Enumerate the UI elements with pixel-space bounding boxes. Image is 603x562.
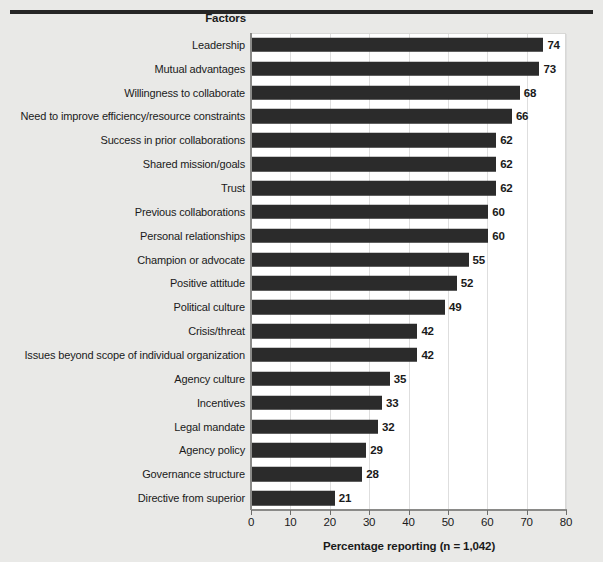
category-label: Shared mission/goals (0, 158, 245, 170)
bar-row: Mutual advantages73 (0, 57, 603, 81)
bar-value-label: 28 (366, 468, 378, 480)
bar-row: Shared mission/goals62 (0, 152, 603, 176)
bar-value-label: 66 (516, 110, 528, 122)
category-label: Willingness to collaborate (0, 87, 245, 99)
x-axis-title: Percentage reporting (n = 1,042) (251, 540, 567, 552)
bar (252, 348, 417, 363)
x-axis-tick-label: 0 (231, 516, 271, 528)
bar-value-label: 73 (543, 63, 555, 75)
category-label: Legal mandate (0, 421, 245, 433)
category-label: Agency culture (0, 373, 245, 385)
bar (252, 443, 366, 458)
bar-value-label: 49 (449, 301, 461, 313)
bar-row: Directive from superior21 (0, 486, 603, 510)
bar (252, 324, 417, 339)
category-label: Directive from superior (0, 492, 245, 504)
bar (252, 181, 496, 196)
x-axis-tick-label: 60 (467, 516, 507, 528)
bar (252, 300, 445, 315)
bar-row: Crisis/threat42 (0, 319, 603, 343)
x-axis-tick-label: 30 (349, 516, 389, 528)
bar-value-label: 29 (370, 444, 382, 456)
bar-row: Need to improve efficiency/resource cons… (0, 105, 603, 129)
category-label: Positive attitude (0, 277, 245, 289)
bar-row: Issues beyond scope of individual organi… (0, 343, 603, 367)
x-axis-tick-label: 10 (270, 516, 310, 528)
bar-value-label: 35 (394, 373, 406, 385)
bar (252, 38, 543, 53)
category-label: Issues beyond scope of individual organi… (0, 349, 245, 361)
bar-row: Political culture49 (0, 295, 603, 319)
x-axis-tick (448, 510, 449, 515)
category-label: Mutual advantages (0, 63, 245, 75)
bar (252, 133, 496, 148)
bar (252, 109, 512, 124)
bar-row: Governance structure28 (0, 462, 603, 486)
bar-value-label: 68 (524, 87, 536, 99)
category-label: Need to improve efficiency/resource cons… (0, 110, 245, 122)
x-axis-tick-label: 40 (389, 516, 429, 528)
bar-value-label: 21 (339, 492, 351, 504)
bar (252, 491, 335, 506)
category-label: Champion or advocate (0, 254, 245, 266)
bar (252, 372, 390, 387)
category-label: Success in prior collaborations (0, 134, 245, 146)
bar-value-label: 55 (473, 254, 485, 266)
chart-figure: Factors Leadership74Mutual advantages73W… (0, 0, 603, 562)
bar-row: Legal mandate32 (0, 415, 603, 439)
bar-row: Agency culture35 (0, 367, 603, 391)
bar-value-label: 60 (492, 230, 504, 242)
bar-row: Previous collaborations60 (0, 200, 603, 224)
bar-rows-container: Leadership74Mutual advantages73Willingne… (0, 33, 603, 510)
x-axis-tick-label: 50 (428, 516, 468, 528)
category-label: Agency policy (0, 444, 245, 456)
bar-value-label: 62 (500, 182, 512, 194)
bar (252, 157, 496, 172)
bar-value-label: 62 (500, 134, 512, 146)
x-axis-tick (290, 510, 291, 515)
bar-value-label: 42 (421, 325, 433, 337)
category-label: Leadership (0, 39, 245, 51)
bar (252, 228, 488, 243)
bar (252, 252, 469, 267)
bar-value-label: 62 (500, 158, 512, 170)
bar (252, 85, 520, 100)
x-axis-tick (527, 510, 528, 515)
x-axis-tick (369, 510, 370, 515)
category-label: Political culture (0, 301, 245, 313)
bar-value-label: 32 (382, 421, 394, 433)
bar-value-label: 42 (421, 349, 433, 361)
category-label: Trust (0, 182, 245, 194)
bar-row: Personal relationships60 (0, 224, 603, 248)
bar-row: Champion or advocate55 (0, 248, 603, 272)
factors-column-header: Factors (0, 12, 246, 24)
bar (252, 467, 362, 482)
category-label: Previous collaborations (0, 206, 245, 218)
x-axis-tick (566, 510, 567, 515)
bar-row: Agency policy29 (0, 438, 603, 462)
category-label: Personal relationships (0, 230, 245, 242)
bar-row: Success in prior collaborations62 (0, 128, 603, 152)
bar (252, 395, 382, 410)
x-axis-tick (409, 510, 410, 515)
bar-row: Trust62 (0, 176, 603, 200)
bar-row: Incentives33 (0, 391, 603, 415)
x-axis-tick-label: 70 (507, 516, 547, 528)
bar-value-label: 74 (547, 39, 559, 51)
bar-value-label: 33 (386, 397, 398, 409)
bar (252, 276, 457, 291)
x-axis-tick (487, 510, 488, 515)
bar-row: Positive attitude52 (0, 272, 603, 296)
x-axis: 01020304050607080 (0, 510, 603, 540)
bar-row: Willingness to collaborate68 (0, 81, 603, 105)
bar (252, 205, 488, 220)
bar-row: Leadership74 (0, 33, 603, 57)
x-axis-tick (251, 510, 252, 515)
category-label: Incentives (0, 397, 245, 409)
bar-value-label: 52 (461, 277, 473, 289)
category-label: Crisis/threat (0, 325, 245, 337)
x-axis-tick (330, 510, 331, 515)
x-axis-tick-label: 80 (546, 516, 586, 528)
bar (252, 419, 378, 434)
category-label: Governance structure (0, 468, 245, 480)
